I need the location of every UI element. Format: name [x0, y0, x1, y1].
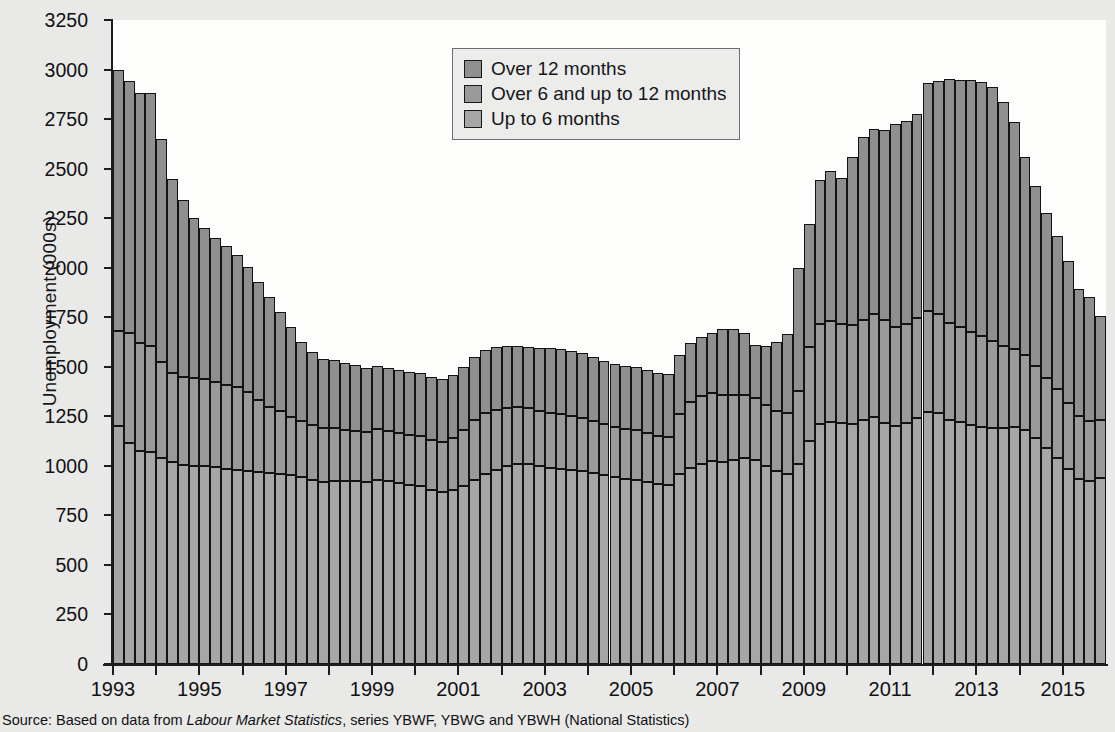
bar-segment	[221, 246, 232, 385]
bar-segment	[394, 483, 405, 664]
bar-segment	[923, 83, 934, 311]
bar-segment	[469, 420, 480, 479]
bar-segment	[976, 82, 987, 336]
bar-segment	[879, 320, 890, 423]
x-axis-tick-label: 1995	[177, 678, 222, 701]
bar	[901, 20, 912, 664]
bar-segment	[685, 343, 696, 402]
y-axis-tick-label: 750	[55, 504, 88, 527]
source-prefix: Source: Based on data from	[2, 712, 187, 728]
bar-segment	[804, 441, 815, 664]
x-axis-tick-label: 2007	[695, 678, 740, 701]
x-axis-tick-mark	[846, 666, 848, 675]
bar-segment	[663, 437, 674, 485]
bar-segment	[556, 469, 567, 664]
bar-segment	[793, 391, 804, 464]
bar	[394, 20, 405, 664]
bar-segment	[264, 473, 275, 664]
bar-segment	[890, 426, 901, 664]
bar-segment	[1041, 213, 1052, 377]
bar-segment	[189, 466, 200, 664]
bar-segment	[815, 324, 826, 424]
bar-segment	[253, 472, 264, 664]
bar	[782, 20, 793, 664]
bar-segment	[480, 413, 491, 473]
bar-segment	[869, 417, 880, 664]
bar-segment	[674, 474, 685, 664]
bar-segment	[663, 374, 674, 437]
bar-segment	[836, 178, 847, 325]
bar-segment	[707, 461, 718, 664]
bar	[815, 20, 826, 664]
x-axis-tick-mark	[414, 666, 416, 675]
bar-segment	[448, 375, 459, 438]
bar	[1041, 20, 1052, 664]
bar-segment	[189, 218, 200, 378]
bar	[135, 20, 146, 664]
bar	[912, 20, 923, 664]
bar-segment	[253, 400, 264, 471]
bar-segment	[1063, 403, 1074, 468]
bar-segment	[577, 471, 588, 664]
bar-segment	[998, 346, 1009, 428]
bar	[350, 20, 361, 664]
x-axis-tick-mark	[975, 666, 977, 675]
bar-segment	[620, 429, 631, 479]
bar-segment	[750, 398, 761, 459]
bar	[340, 20, 351, 664]
bar-segment	[793, 268, 804, 391]
x-axis-tick-mark	[932, 666, 934, 675]
bar-segment	[685, 402, 696, 467]
bar-segment	[361, 368, 372, 432]
bar-segment	[199, 379, 210, 466]
bar-segment	[912, 318, 923, 418]
bar-segment	[653, 436, 664, 484]
bar-segment	[696, 337, 707, 396]
bar-segment	[610, 427, 621, 477]
x-axis-tick-mark	[1019, 666, 1021, 675]
bar-segment	[448, 438, 459, 490]
bar	[771, 20, 782, 664]
x-axis-tick-label: 2011	[869, 678, 912, 701]
bar	[1020, 20, 1031, 664]
bar-segment	[933, 314, 944, 413]
y-axis-tick-label: 3000	[45, 58, 88, 81]
bar-segment	[1030, 438, 1041, 664]
bar-segment	[221, 385, 232, 469]
bar-segment	[350, 481, 361, 664]
bar-segment	[1095, 316, 1106, 420]
x-axis-tick-label: 1997	[263, 678, 308, 701]
bar-segment	[113, 426, 124, 664]
bar-segment	[761, 466, 772, 664]
bar-segment	[642, 482, 653, 664]
bar-segment	[383, 481, 394, 664]
bar-segment	[523, 347, 534, 408]
bar	[156, 20, 167, 664]
bar-segment	[329, 360, 340, 428]
bar-segment	[275, 312, 286, 411]
x-axis-tick-mark	[889, 666, 891, 675]
bar-segment	[512, 346, 523, 407]
bar-segment	[502, 408, 513, 465]
y-axis-tick-label: 0	[77, 653, 88, 676]
bar	[189, 20, 200, 664]
bar-segment	[189, 378, 200, 466]
bar-segment	[685, 468, 696, 664]
bar	[1052, 20, 1063, 664]
bar-segment	[221, 469, 232, 664]
bar-segment	[210, 467, 221, 664]
bar	[847, 20, 858, 664]
bar-segment	[523, 464, 534, 664]
y-axis-tick-labels: 0250500750100012501500175020002250250027…	[0, 0, 102, 732]
bar-segment	[512, 407, 523, 463]
bar	[426, 20, 437, 664]
bar-segment	[361, 432, 372, 482]
bar-segment	[739, 333, 750, 394]
bar-segment	[556, 414, 567, 468]
bar	[879, 20, 890, 664]
bar	[253, 20, 264, 664]
bar-segment	[135, 93, 146, 343]
bar-segment	[858, 137, 869, 320]
bar	[124, 20, 135, 664]
x-axis-tick-mark	[371, 666, 373, 675]
